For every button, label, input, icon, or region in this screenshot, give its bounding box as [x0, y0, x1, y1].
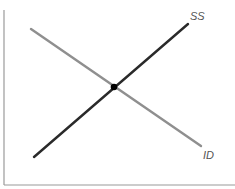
equilibrium-point [111, 84, 118, 91]
economics-diagram: SS ID [0, 0, 235, 189]
id-curve-label: ID [203, 149, 214, 161]
ss-curve [34, 24, 188, 157]
ss-curve-label: SS [190, 10, 205, 22]
